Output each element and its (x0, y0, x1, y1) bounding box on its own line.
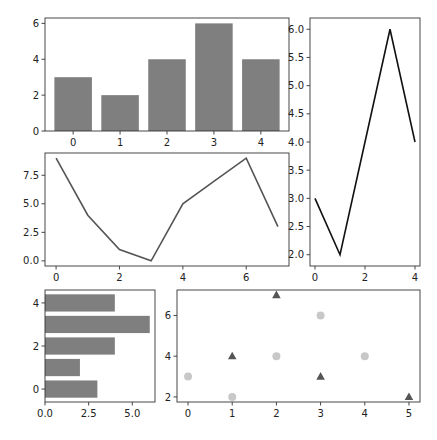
x-tick-label: 5.0 (124, 408, 140, 419)
y-tick-label: 4 (165, 351, 171, 362)
bar (45, 294, 115, 311)
triangle-marker (405, 392, 414, 400)
line-chart-right: 0242.02.53.03.54.04.55.05.56.0 (288, 18, 420, 283)
circle-marker (228, 393, 236, 401)
bar (45, 316, 150, 333)
x-tick-label: 0 (185, 408, 191, 419)
y-tick-label: 2 (33, 341, 39, 352)
x-tick-label: 0 (312, 272, 318, 283)
circle-marker (317, 311, 325, 319)
y-tick-label: 5.0 (288, 80, 304, 91)
circle-marker (184, 373, 192, 381)
y-tick-label: 6 (165, 310, 171, 321)
bar-chart-top-left: 012340246 (33, 18, 289, 148)
bar (101, 95, 139, 131)
x-tick-label: 1 (117, 137, 123, 148)
x-tick-label: 2 (362, 272, 368, 283)
y-tick-label: 4.0 (288, 137, 304, 148)
x-tick-label: 6 (243, 272, 249, 283)
y-tick-label: 4 (33, 54, 39, 65)
axes-frame (177, 290, 420, 402)
x-tick-label: 1 (229, 408, 235, 419)
bar (148, 59, 186, 131)
y-tick-label: 0 (33, 384, 39, 395)
y-tick-label: 3.0 (288, 193, 304, 204)
y-tick-label: 5.0 (23, 198, 39, 209)
x-tick-label: 0 (53, 272, 59, 283)
x-tick-label: 2 (116, 272, 122, 283)
x-tick-label: 3 (317, 408, 323, 419)
x-tick-label: 4 (362, 408, 368, 419)
x-tick-label: 2.5 (81, 408, 97, 419)
y-tick-label: 2 (33, 90, 39, 101)
bar (45, 337, 115, 354)
y-tick-label: 6 (33, 18, 39, 29)
data-line (56, 158, 278, 261)
circle-marker (272, 352, 280, 360)
y-tick-label: 2.5 (288, 221, 304, 232)
y-tick-label: 6.0 (288, 24, 304, 35)
bar (45, 380, 97, 397)
scatter-chart-bottom-right: 012345246 (165, 290, 420, 419)
x-tick-label: 2 (273, 408, 279, 419)
data-line (315, 29, 415, 254)
x-tick-label: 0 (70, 137, 76, 148)
circle-marker (361, 352, 369, 360)
x-tick-label: 2 (164, 137, 170, 148)
x-tick-label: 5 (406, 408, 412, 419)
bar (242, 59, 280, 131)
y-tick-label: 4 (33, 298, 39, 309)
horizontal-bar-chart-bottom-left: 0.02.55.0024 (33, 290, 155, 419)
line-chart-middle: 02460.02.55.07.5 (23, 153, 289, 283)
y-tick-label: 7.5 (23, 170, 39, 181)
y-tick-label: 2.5 (23, 227, 39, 238)
x-tick-label: 4 (412, 272, 418, 283)
y-tick-label: 2.0 (288, 249, 304, 260)
y-tick-label: 3.5 (288, 165, 304, 176)
y-tick-label: 4.5 (288, 108, 304, 119)
bar (45, 359, 80, 376)
bar (54, 77, 92, 131)
y-tick-label: 5.5 (288, 52, 304, 63)
bar (195, 23, 233, 131)
x-tick-label: 4 (180, 272, 186, 283)
figure: 012340246 0242.02.53.03.54.04.55.05.56.0… (0, 0, 437, 440)
y-tick-label: 0.0 (23, 255, 39, 266)
triangle-marker (316, 372, 325, 380)
y-tick-label: 2 (165, 392, 171, 403)
x-tick-label: 0.0 (37, 408, 53, 419)
triangle-marker (228, 352, 237, 360)
x-tick-label: 4 (258, 137, 264, 148)
y-tick-label: 0 (33, 126, 39, 137)
x-tick-label: 3 (211, 137, 217, 148)
triangle-marker (272, 291, 281, 299)
